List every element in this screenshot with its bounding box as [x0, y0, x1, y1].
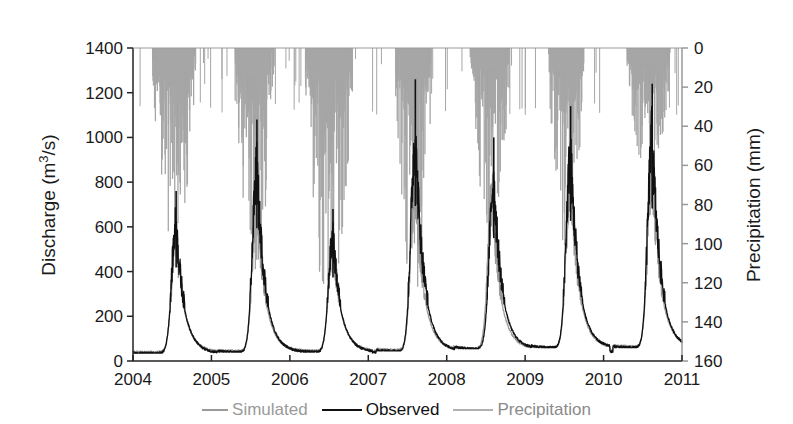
discharge-precipitation-chart: 0200400600800100012001400020406080100120…: [0, 0, 793, 398]
svg-text:1200: 1200: [85, 84, 123, 103]
svg-text:2004: 2004: [114, 370, 152, 389]
svg-text:2006: 2006: [271, 370, 309, 389]
legend-item-precipitation: Precipitation: [453, 400, 591, 420]
svg-text:2008: 2008: [428, 370, 466, 389]
svg-text:120: 120: [694, 274, 722, 293]
simulated-line-swatch: [202, 409, 228, 411]
svg-text:2007: 2007: [349, 370, 387, 389]
svg-text:800: 800: [95, 173, 123, 192]
y2-axis-title: Precipitation (mm): [743, 128, 764, 282]
svg-text:1400: 1400: [85, 39, 123, 58]
svg-text:140: 140: [694, 313, 722, 332]
svg-text:0: 0: [114, 352, 123, 371]
svg-text:40: 40: [694, 117, 713, 136]
legend-item-observed: Observed: [322, 400, 440, 420]
legend-item-simulated: Simulated: [202, 400, 308, 420]
svg-text:0: 0: [694, 39, 703, 58]
precipitation-series: [140, 48, 678, 287]
precipitation-line-swatch: [453, 409, 493, 411]
svg-text:400: 400: [95, 263, 123, 282]
svg-text:1000: 1000: [85, 128, 123, 147]
legend-label-precipitation: Precipitation: [497, 400, 591, 420]
legend-label-observed: Observed: [366, 400, 440, 420]
legend: Simulated Observed Precipitation: [0, 398, 793, 422]
legend-label-simulated: Simulated: [232, 400, 308, 420]
svg-text:20: 20: [694, 78, 713, 97]
observed-line-swatch: [322, 409, 362, 411]
svg-text:80: 80: [694, 196, 713, 215]
svg-text:2009: 2009: [506, 370, 544, 389]
y-axis-title: Discharge (m3/s): [36, 134, 60, 275]
svg-text:100: 100: [694, 235, 722, 254]
svg-text:160: 160: [694, 352, 722, 371]
svg-text:60: 60: [694, 156, 713, 175]
svg-text:600: 600: [95, 218, 123, 237]
svg-text:2010: 2010: [585, 370, 623, 389]
svg-text:2011: 2011: [664, 370, 701, 389]
svg-text:2005: 2005: [193, 370, 231, 389]
svg-text:200: 200: [95, 307, 123, 326]
